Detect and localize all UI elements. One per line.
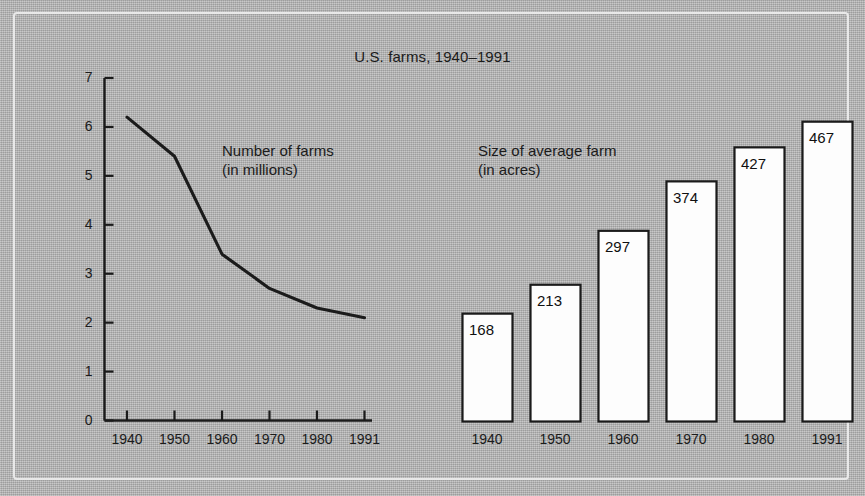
bar-value-label: 168 [469, 321, 494, 338]
line-legend-line2: (in millions) [222, 161, 298, 178]
bar [599, 231, 649, 422]
y-tick-label: 6 [73, 118, 93, 134]
bar-value-label: 427 [741, 155, 766, 172]
y-tick-label: 7 [73, 69, 93, 85]
bar-value-label: 213 [537, 292, 562, 309]
bar-legend-line1: Size of average farm [478, 142, 616, 159]
bar-value-label: 374 [673, 189, 698, 206]
bar-value-label: 297 [605, 238, 630, 255]
bar-legend-line2: (in acres) [478, 161, 541, 178]
bar [735, 147, 785, 421]
x-tick-label: 1940 [100, 431, 154, 447]
bar-x-tick-label: 1960 [596, 431, 650, 447]
x-tick-label: 1970 [243, 431, 297, 447]
y-tick-label: 2 [73, 314, 93, 330]
line-chart-y-ticks [105, 78, 114, 421]
y-tick-label: 5 [73, 167, 93, 183]
line-chart-legend: Number of farms(in millions) [222, 141, 334, 179]
bar-chart-legend: Size of average farm(in acres) [478, 141, 616, 179]
y-tick-label: 3 [73, 265, 93, 281]
bar [667, 181, 717, 421]
bar-x-tick-label: 1970 [664, 431, 718, 447]
x-tick-label: 1980 [290, 431, 344, 447]
figure-screenshot: U.S. farms, 1940–1991 Number of farms(in… [0, 0, 865, 496]
bar-x-tick-label: 1950 [528, 431, 582, 447]
bar-x-tick-label: 1980 [732, 431, 786, 447]
bar-value-label: 467 [809, 129, 834, 146]
line-chart-axes [105, 78, 373, 421]
x-tick-label: 1950 [148, 431, 202, 447]
x-tick-label: 1991 [338, 431, 392, 447]
line-legend-line1: Number of farms [222, 142, 334, 159]
y-tick-label: 1 [73, 363, 93, 379]
y-tick-label: 0 [73, 412, 93, 428]
line-chart-x-ticks [127, 411, 365, 421]
x-tick-label: 1960 [195, 431, 249, 447]
y-tick-label: 4 [73, 216, 93, 232]
bar [803, 122, 853, 422]
bar-x-tick-label: 1991 [800, 431, 854, 447]
bar-x-tick-label: 1940 [460, 431, 514, 447]
plot-vector-layer [0, 0, 865, 496]
